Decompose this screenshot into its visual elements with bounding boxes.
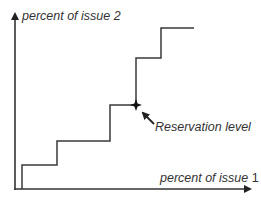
y-axis-label: percent of issue 2 [21,9,121,23]
annotation-arrow [143,113,154,124]
staircase-line [22,28,194,189]
x-axis-label-text: percent of issue [159,171,252,185]
x-axis-label: percent of issue 1 [159,171,259,185]
diagram-canvas: percent of issue 2 Reservation level per… [0,0,261,204]
star-marker-icon [130,99,142,111]
annotation-label: Reservation level [155,120,252,134]
x-axis-label-number: 1 [252,171,259,185]
